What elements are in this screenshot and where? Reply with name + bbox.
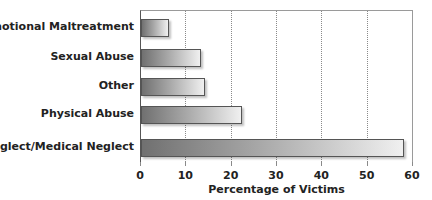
bar bbox=[141, 19, 169, 37]
bar bbox=[141, 49, 201, 67]
category-label: Sexual Abuse bbox=[50, 48, 134, 66]
x-tick-label: 0 bbox=[125, 169, 155, 182]
bar bbox=[141, 106, 242, 124]
category-label: Emotional Maltreatment bbox=[0, 18, 134, 36]
x-tick-mark bbox=[321, 162, 322, 166]
x-tick-label: 20 bbox=[216, 169, 246, 182]
x-tick-mark bbox=[412, 162, 413, 166]
x-tick-mark bbox=[276, 162, 277, 166]
x-axis-label: Percentage of Victims bbox=[140, 183, 413, 196]
bar bbox=[141, 139, 404, 157]
category-label: Neglect/Medical Neglect bbox=[0, 138, 134, 156]
bar bbox=[141, 78, 205, 96]
x-tick-mark bbox=[367, 162, 368, 166]
x-tick-mark bbox=[185, 162, 186, 166]
category-label: Physical Abuse bbox=[41, 105, 134, 123]
x-tick-label: 10 bbox=[170, 169, 200, 182]
x-tick-mark bbox=[231, 162, 232, 166]
x-tick-label: 30 bbox=[261, 169, 291, 182]
x-tick-label: 60 bbox=[397, 169, 427, 182]
category-label: Other bbox=[99, 77, 134, 95]
x-tick-mark bbox=[140, 162, 141, 166]
plot-area bbox=[140, 10, 413, 162]
x-tick-label: 40 bbox=[306, 169, 336, 182]
x-tick-label: 50 bbox=[352, 169, 382, 182]
